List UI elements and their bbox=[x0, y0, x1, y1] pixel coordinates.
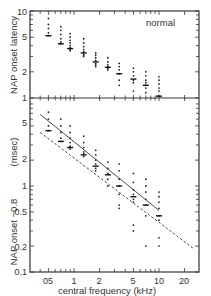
plot-frame bbox=[30, 11, 199, 272]
x-axis-title: central frequency (kHz) bbox=[58, 285, 156, 296]
data-point bbox=[83, 49, 85, 51]
data-point bbox=[133, 193, 135, 195]
data-point bbox=[118, 84, 120, 86]
data-point bbox=[60, 118, 62, 120]
bottom-y-axis-title: NAP onset −0.8 bbox=[8, 199, 19, 266]
data-point bbox=[83, 38, 85, 40]
data-point bbox=[107, 61, 109, 63]
data-point bbox=[95, 163, 97, 165]
data-point bbox=[48, 24, 50, 26]
data-point bbox=[118, 69, 120, 71]
data-point bbox=[118, 163, 120, 165]
data-point bbox=[95, 57, 97, 59]
data-point bbox=[95, 149, 97, 151]
data-point bbox=[83, 156, 85, 158]
data-point bbox=[83, 142, 85, 144]
data-point bbox=[158, 191, 160, 193]
data-point bbox=[83, 56, 85, 58]
top-ytick-5: 5 bbox=[22, 32, 27, 42]
fit-lines bbox=[40, 114, 193, 248]
dashed-bound-line bbox=[40, 132, 193, 248]
data-point bbox=[95, 159, 97, 161]
data-point bbox=[60, 41, 62, 43]
data-point bbox=[133, 189, 135, 191]
top-ytick-10: 10 bbox=[17, 7, 27, 17]
data-point bbox=[60, 125, 62, 127]
data-point bbox=[145, 75, 147, 77]
data-point bbox=[133, 224, 135, 226]
condition-annotation: normal bbox=[146, 17, 175, 28]
data-point bbox=[95, 66, 97, 68]
data-point bbox=[69, 33, 71, 35]
bottom-ytick-2: 2 bbox=[22, 154, 27, 164]
data-point bbox=[118, 204, 120, 206]
data-point bbox=[48, 125, 50, 127]
data-point bbox=[158, 245, 160, 247]
xtick-0.5: 05 bbox=[43, 276, 53, 286]
data-point bbox=[95, 54, 97, 56]
data-point bbox=[69, 42, 71, 44]
data-point bbox=[95, 170, 97, 172]
data-point bbox=[133, 201, 135, 203]
data-point bbox=[158, 83, 160, 85]
data-point bbox=[133, 67, 135, 69]
data-point bbox=[107, 185, 109, 187]
data-point bbox=[118, 170, 120, 172]
data-point bbox=[83, 42, 85, 44]
data-point bbox=[69, 148, 71, 150]
data-point bbox=[158, 90, 160, 92]
data-point bbox=[158, 219, 160, 221]
data-point bbox=[83, 152, 85, 154]
data-point bbox=[60, 38, 62, 40]
data-point bbox=[118, 207, 120, 209]
data-point bbox=[145, 185, 147, 187]
data-point bbox=[158, 76, 160, 78]
data-point bbox=[158, 79, 160, 81]
axis-ticks bbox=[30, 11, 199, 272]
data-point bbox=[107, 178, 109, 180]
data-point bbox=[145, 178, 147, 180]
xtick-20: 20 bbox=[179, 276, 189, 286]
data-point bbox=[107, 64, 109, 66]
data-point bbox=[133, 230, 135, 232]
data-point bbox=[95, 52, 97, 54]
data-point bbox=[60, 33, 62, 35]
data-point bbox=[83, 147, 85, 149]
data-point bbox=[69, 125, 71, 127]
data-point bbox=[95, 60, 97, 62]
data-point bbox=[133, 198, 135, 200]
data-point bbox=[60, 137, 62, 139]
data-point bbox=[133, 90, 135, 92]
axis-labels: 10 5 2 1 5 2 1 0.5 0.2 0.1 05 1 2 5 10 2… bbox=[8, 7, 189, 296]
data-point bbox=[69, 137, 71, 139]
data-point bbox=[145, 82, 147, 84]
data-point bbox=[118, 193, 120, 195]
data-point bbox=[145, 198, 147, 200]
data-point bbox=[69, 50, 71, 52]
data-point bbox=[145, 215, 147, 217]
plot-border bbox=[30, 11, 199, 272]
regression-line bbox=[40, 114, 159, 210]
data-point bbox=[95, 64, 97, 66]
data-point bbox=[133, 82, 135, 84]
data-point bbox=[145, 92, 147, 94]
data-point bbox=[118, 79, 120, 81]
data-point bbox=[145, 79, 147, 81]
data-point bbox=[48, 118, 50, 120]
data-point bbox=[69, 45, 71, 47]
data-point bbox=[158, 201, 160, 203]
data-point bbox=[145, 191, 147, 193]
bottom-ytick-5: 5 bbox=[22, 118, 27, 128]
data-point bbox=[158, 87, 160, 89]
data-point bbox=[69, 132, 71, 134]
data-point bbox=[133, 182, 135, 184]
data-point bbox=[118, 62, 120, 64]
data-point bbox=[48, 28, 50, 30]
bottom-y-axis-unit: (msec) bbox=[8, 137, 19, 166]
data-point bbox=[158, 207, 160, 209]
data-point bbox=[133, 75, 135, 77]
data-point bbox=[60, 26, 62, 28]
data-point bbox=[48, 111, 50, 113]
data-point bbox=[158, 237, 160, 239]
data-point bbox=[133, 71, 135, 73]
